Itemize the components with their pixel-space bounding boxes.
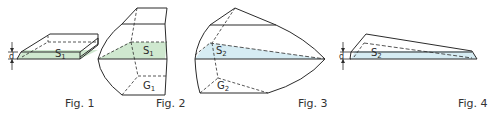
figure-1-slab: d S1 xyxy=(8,34,98,70)
figure-4-wedge: d S2 xyxy=(339,34,477,70)
lens-hidden-bottom xyxy=(200,78,218,93)
dimension-label-d: d xyxy=(9,52,14,61)
centroid-label-g1: G1 xyxy=(143,80,155,93)
caption-fig-3: Fig. 3 xyxy=(298,97,328,110)
block-top-face xyxy=(122,8,167,24)
wedge-left-edge xyxy=(350,52,351,59)
section-s1-fill-2 xyxy=(98,42,167,59)
centroid-label-g2: G2 xyxy=(217,80,229,93)
block-hidden-bottom xyxy=(122,76,138,95)
caption-fig-2: Fig. 2 xyxy=(156,97,186,110)
lens-bottom-curve xyxy=(268,59,325,93)
figure-2-curved-block: S1 G1 xyxy=(98,8,176,95)
figure-3-lens: S2 G2 xyxy=(195,8,325,93)
block-right-bottom xyxy=(165,59,167,95)
dimension-label-d-4: d xyxy=(339,52,344,61)
caption-fig-4: Fig. 4 xyxy=(458,97,488,110)
caption-fig-1: Fig. 1 xyxy=(65,97,95,110)
